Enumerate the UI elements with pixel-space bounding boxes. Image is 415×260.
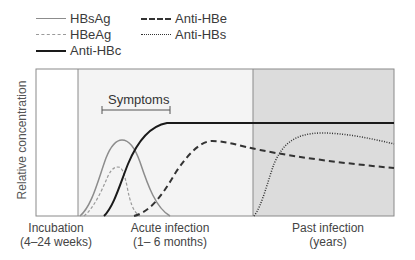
phase-name: Acute infection [125, 221, 215, 235]
incubation-region [36, 69, 78, 216]
phase-duration: (1– 6 months) [125, 235, 215, 249]
symptoms-label: Symptoms [108, 92, 169, 107]
phase-duration: (years) [283, 235, 373, 249]
phase-name: Incubation [18, 221, 94, 235]
phase-acute: Acute infection (1– 6 months) [125, 221, 215, 249]
phase-name: Past infection [283, 221, 373, 235]
phase-incubation: Incubation (4–24 weeks) [18, 221, 94, 249]
phase-duration: (4–24 weeks) [18, 235, 94, 249]
phase-past: Past infection (years) [283, 221, 373, 249]
past-region [253, 69, 394, 216]
